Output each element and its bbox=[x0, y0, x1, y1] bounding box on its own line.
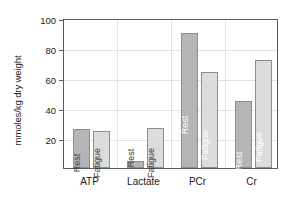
bar-group-lactate: Rest Fatigue bbox=[118, 20, 171, 168]
bar-lactate-fatigue: Fatigue bbox=[147, 128, 164, 169]
bar-label-atp-rest: Rest bbox=[73, 154, 82, 173]
y-tick-label-40: 40 bbox=[45, 105, 56, 116]
y-tick-label-80: 80 bbox=[45, 45, 56, 56]
plot-area: 100 80 60 40 20 Rest Fatigue Rest Fatigu… bbox=[63, 19, 278, 169]
bar-atp-fatigue: Fatigue bbox=[93, 131, 110, 169]
bar-group-atp: Rest Fatigue bbox=[64, 20, 117, 168]
bar-group-cr: Rest Fatigue bbox=[226, 20, 279, 168]
bar-label-pcr-fatigue: Fatigue bbox=[201, 130, 210, 160]
x-label-cr: Cr bbox=[225, 176, 278, 187]
bar-group-pcr: Rest Fatigue bbox=[172, 20, 225, 168]
x-label-lactate: Lactate bbox=[117, 176, 170, 187]
bar-label-atp-fatigue: Fatigue bbox=[93, 148, 102, 178]
y-axis-title: mmoles/kg dry weight bbox=[12, 26, 23, 176]
bar-cr-fatigue: Fatigue bbox=[255, 60, 272, 168]
bar-chart: mmoles/kg dry weight 100 80 60 40 20 Res… bbox=[0, 0, 291, 216]
bar-label-lactate-fatigue: Fatigue bbox=[147, 148, 156, 178]
bar-lactate-rest: Rest bbox=[127, 161, 144, 169]
bar-label-cr-fatigue: Fatigue bbox=[255, 132, 264, 162]
y-tick-label-100: 100 bbox=[40, 15, 56, 26]
y-tick-label-20: 20 bbox=[45, 135, 56, 146]
bar-atp-rest: Rest bbox=[73, 129, 90, 168]
x-label-pcr: PCr bbox=[171, 176, 224, 187]
x-label-atp: ATP bbox=[63, 176, 116, 187]
bar-cr-rest: Rest bbox=[235, 101, 252, 169]
y-tick-label-60: 60 bbox=[45, 75, 56, 86]
bar-pcr-rest: Rest bbox=[181, 33, 198, 168]
bar-label-pcr-rest: Rest bbox=[181, 116, 190, 135]
bar-pcr-fatigue: Fatigue bbox=[201, 72, 218, 168]
bar-label-lactate-rest: Rest bbox=[127, 149, 136, 168]
bar-label-cr-rest: Rest bbox=[235, 152, 244, 171]
